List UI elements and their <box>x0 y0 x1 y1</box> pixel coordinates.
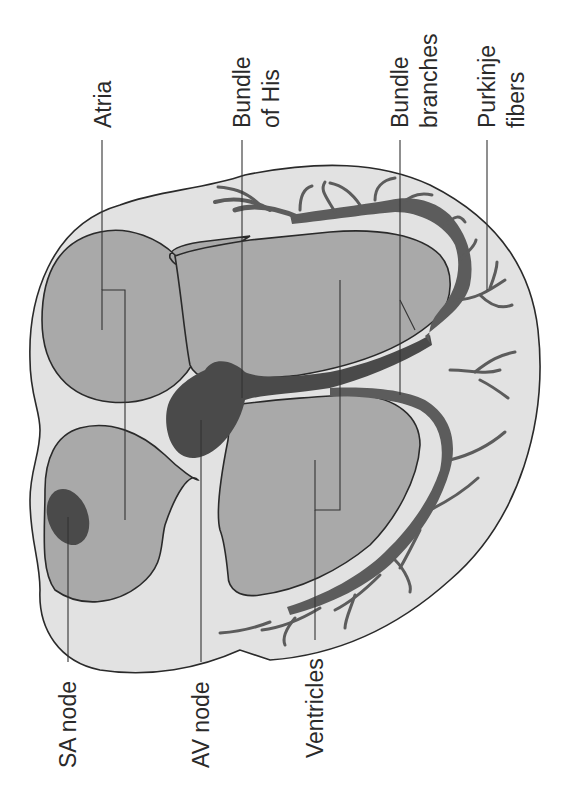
label-ventricles: Ventricles <box>302 658 328 758</box>
label-av-node: AV node <box>188 681 214 768</box>
label-bundle-of-his-line1: Bundle <box>229 56 255 128</box>
label-sa-node: SA node <box>55 681 81 768</box>
label-bundle-of-his-line2: of His <box>258 69 284 128</box>
label-bundle-branches-line1: Bundle <box>387 56 413 128</box>
label-purkinje-fibers-line2: fibers <box>503 72 529 128</box>
label-purkinje-fibers-line1: Purkinje <box>474 45 500 128</box>
label-bundle-branches-line2: branches <box>416 33 442 128</box>
label-atria: Atria <box>90 81 116 129</box>
heart-conduction-diagram: SA node AV node Ventricles Atria Bundle … <box>0 0 561 798</box>
